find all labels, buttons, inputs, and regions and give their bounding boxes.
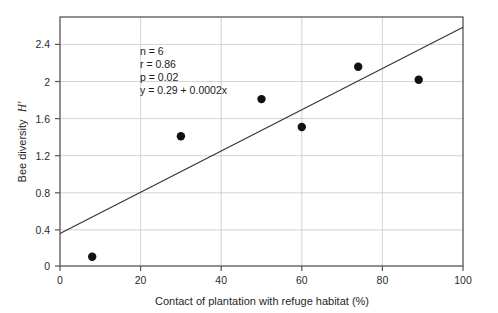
data-point[interactable]: [415, 76, 423, 84]
ytick-label-1.2: 1.2: [35, 150, 50, 162]
xtick-label-80: 80: [377, 274, 389, 286]
chart-figure: 0 0.4 0.8 1.2 1.6 2 2.4 0 20 40 60 80 10…: [0, 0, 498, 313]
ytick-label-2: 2: [44, 76, 50, 88]
y-axis-title-symbol: H': [16, 101, 28, 113]
x-axis-title: Contact of plantation with refuge habita…: [155, 295, 369, 307]
ytick-label-0.8: 0.8: [35, 187, 50, 199]
data-point[interactable]: [257, 95, 265, 103]
xtick-label-0: 0: [57, 274, 63, 286]
annotation-equation: y = 0.29 + 0.0002x: [140, 84, 228, 96]
ytick-label-0: 0: [44, 260, 50, 272]
data-point[interactable]: [354, 62, 362, 70]
xtick-label-20: 20: [135, 274, 147, 286]
data-point[interactable]: [298, 123, 306, 131]
scatter-plot: 0 0.4 0.8 1.2 1.6 2 2.4 0 20 40 60 80 10…: [0, 0, 498, 313]
annotation-correlation: r = 0.86: [140, 58, 176, 70]
y-axis-title-plain: Bee diversity: [16, 119, 28, 182]
annotation-pvalue: p = 0.02: [140, 71, 178, 83]
y-axis-ticks: [55, 44, 60, 266]
annotation-sample-size: n = 6: [140, 45, 164, 57]
ytick-label-2.4: 2.4: [35, 38, 50, 50]
plot-background: [60, 17, 463, 266]
ytick-label-1.6: 1.6: [35, 113, 50, 125]
x-axis-ticks: [60, 266, 463, 271]
xtick-label-40: 40: [215, 274, 227, 286]
data-point[interactable]: [177, 132, 185, 140]
data-point[interactable]: [88, 253, 96, 261]
y-axis-title: Bee diversity H': [16, 101, 28, 182]
xtick-label-60: 60: [296, 274, 308, 286]
xtick-label-100: 100: [454, 274, 472, 286]
ytick-label-0.4: 0.4: [35, 224, 50, 236]
svg-text:Bee diversity H': Bee diversity H': [16, 101, 28, 182]
